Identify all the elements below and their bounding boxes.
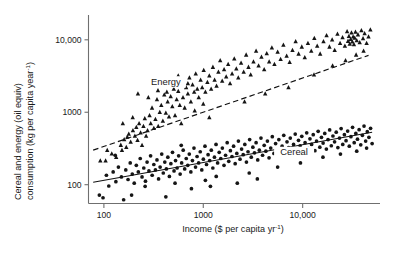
data-point-cereal — [150, 173, 154, 177]
data-point-cereal — [155, 158, 159, 162]
data-point-energy — [216, 69, 220, 73]
data-point-cereal — [179, 143, 183, 147]
data-point-energy — [303, 55, 307, 59]
data-point-cereal — [143, 184, 147, 188]
data-point-energy — [156, 88, 160, 92]
data-point-energy — [197, 95, 201, 99]
data-point-cereal — [130, 193, 134, 197]
data-point-cereal — [111, 170, 115, 174]
data-point-cereal — [256, 158, 260, 162]
data-point-cereal — [171, 150, 175, 154]
data-point-cereal — [181, 148, 185, 152]
data-point-energy — [211, 65, 215, 69]
data-point-cereal — [318, 145, 322, 149]
data-point-energy — [312, 72, 316, 76]
data-point-cereal — [254, 141, 258, 145]
data-point-cereal — [145, 160, 149, 164]
data-point-cereal — [251, 145, 255, 149]
data-point-cereal — [140, 175, 144, 179]
data-point-energy — [127, 132, 131, 136]
data-point-energy — [155, 97, 159, 101]
data-point-energy — [135, 138, 139, 142]
data-point-cereal — [356, 137, 360, 141]
data-point-cereal — [178, 172, 182, 176]
data-point-cereal — [364, 139, 368, 143]
y-axis-title-group: Cereal and energy (oil equiv) consumptio… — [13, 62, 35, 200]
data-point-cereal — [282, 133, 286, 137]
data-point-cereal — [235, 181, 239, 185]
data-point-energy — [239, 60, 243, 64]
data-point-energy — [201, 102, 205, 106]
data-point-energy — [265, 51, 269, 55]
data-point-cereal — [320, 136, 324, 140]
data-point-cereal — [331, 134, 335, 138]
data-point-energy — [309, 49, 313, 53]
data-point-energy — [224, 74, 228, 78]
data-point-energy — [232, 56, 236, 60]
data-point-cereal — [245, 160, 249, 164]
data-point-energy — [147, 113, 151, 117]
energy-series-label: Energy — [151, 76, 181, 87]
data-point-energy — [178, 103, 182, 107]
data-point-energy — [121, 121, 125, 125]
data-point-energy — [212, 77, 216, 81]
data-point-energy — [202, 68, 206, 72]
data-point-cereal — [325, 147, 329, 151]
y-axis-title-line2: consumption (kg per capita year-1) — [24, 62, 35, 200]
data-point-cereal — [229, 149, 233, 153]
data-point-cereal — [138, 157, 142, 161]
y-tick-label-0: 100 — [67, 180, 82, 190]
scatter-plot-svg: Cereal and energy (oil equiv) consumptio… — [0, 0, 412, 254]
cereal-series-label: Cereal — [280, 146, 308, 157]
data-point-energy — [236, 75, 240, 79]
data-point-energy — [368, 27, 372, 31]
chart-figure: Cereal and energy (oil equiv) consumptio… — [0, 0, 412, 254]
data-point-cereal — [333, 140, 337, 144]
data-point-cereal — [311, 133, 315, 137]
data-point-cereal — [152, 163, 156, 167]
data-point-energy — [296, 51, 300, 55]
data-point-cereal — [174, 159, 178, 163]
data-point-energy — [186, 91, 190, 95]
data-point-energy — [159, 103, 163, 107]
data-point-cereal — [369, 126, 373, 130]
data-point-energy — [186, 81, 190, 85]
data-point-energy — [136, 91, 140, 95]
data-point-cereal — [202, 157, 206, 161]
data-point-energy — [249, 72, 253, 76]
data-point-cereal — [194, 165, 198, 169]
data-point-energy — [354, 52, 358, 56]
data-point-cereal — [173, 181, 177, 185]
data-point-energy — [246, 65, 250, 69]
data-point-cereal — [269, 146, 273, 150]
data-point-cereal — [183, 167, 187, 171]
data-point-cereal — [370, 142, 374, 146]
x-tick-label-0: 100 — [97, 210, 112, 220]
data-point-energy — [321, 39, 325, 43]
data-point-energy — [194, 71, 198, 75]
cereal-fit-line — [93, 132, 372, 182]
data-point-cereal — [101, 196, 105, 200]
data-point-cereal — [339, 152, 343, 156]
data-point-cereal — [248, 138, 252, 142]
data-point-energy — [200, 85, 204, 89]
data-point-energy — [267, 59, 271, 63]
data-point-cereal — [217, 150, 221, 154]
data-point-cereal — [136, 170, 140, 174]
data-point-cereal — [177, 154, 181, 158]
data-point-energy — [300, 44, 304, 48]
data-point-cereal — [203, 144, 207, 148]
data-point-cereal — [221, 146, 225, 150]
data-point-cereal — [344, 139, 348, 143]
data-point-cereal — [192, 146, 196, 150]
data-point-cereal — [249, 155, 253, 159]
data-point-energy — [170, 104, 174, 108]
data-point-energy — [272, 62, 276, 66]
data-point-cereal — [206, 153, 210, 157]
data-point-cereal — [158, 165, 162, 169]
data-point-cereal — [351, 125, 355, 129]
data-point-energy — [338, 41, 342, 45]
data-point-energy — [228, 81, 232, 85]
data-point-energy — [143, 116, 147, 120]
data-point-energy — [198, 77, 202, 81]
